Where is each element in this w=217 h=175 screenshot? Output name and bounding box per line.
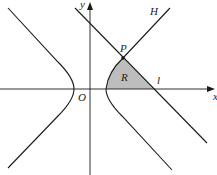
x-axis-label: x bbox=[212, 90, 217, 102]
point-p-label: P bbox=[119, 42, 127, 54]
line-l bbox=[75, 8, 207, 143]
hyperbola-left-branch bbox=[8, 8, 74, 168]
hyperbola-diagram: y x O H P R l bbox=[0, 0, 217, 175]
line-h-label: H bbox=[149, 5, 159, 17]
origin-label: O bbox=[78, 91, 86, 103]
region-r-label: R bbox=[120, 71, 128, 83]
y-axis-label: y bbox=[79, 0, 85, 10]
point-p bbox=[121, 56, 125, 60]
line-l-label: l bbox=[157, 74, 160, 86]
y-axis-arrow-icon bbox=[87, 2, 93, 10]
region-r bbox=[106, 58, 153, 89]
